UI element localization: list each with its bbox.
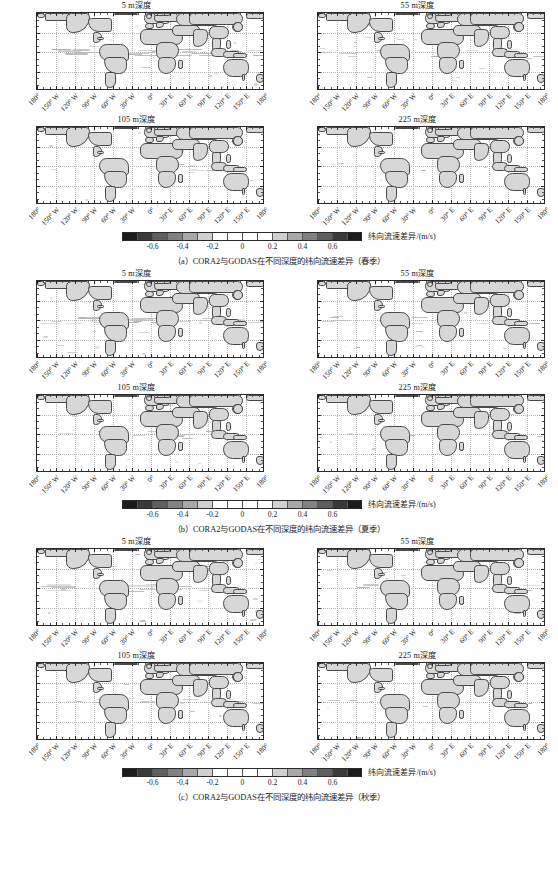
y-axis-minor-tick (542, 140, 544, 141)
x-axis-minor-tick (138, 87, 139, 89)
y-axis-minor-tick (542, 735, 544, 736)
x-axis-minor-tick (369, 395, 370, 397)
graticule-longitude (337, 13, 338, 89)
world-map-plot[interactable]: 60° N30° N0°30° S60° S (317, 126, 545, 204)
x-axis-minor-tick (145, 355, 146, 357)
x-axis-minor-tick (221, 549, 222, 551)
x-axis-minor-tick (183, 13, 184, 15)
x-axis-minor-tick (157, 395, 158, 397)
x-axis-minor-tick (540, 395, 541, 397)
x-axis-tick (432, 281, 433, 284)
x-axis-tick (227, 281, 228, 284)
colorbar[interactable] (122, 500, 362, 509)
x-axis-minor-tick (514, 201, 515, 203)
x-axis-minor-tick (521, 355, 522, 357)
y-axis-tick (37, 722, 40, 723)
x-axis-tick (318, 468, 319, 471)
world-map-plot[interactable]: 60° N30° N0°30° S60° S (317, 12, 545, 90)
x-axis-minor-tick (164, 623, 165, 625)
x-axis-minor-tick (88, 549, 89, 551)
y-axis-minor-tick (37, 46, 39, 47)
anomaly-streak (523, 585, 542, 586)
landmass (145, 23, 154, 28)
landmass (378, 687, 386, 690)
landmass (435, 281, 451, 284)
y-axis-minor-tick (37, 689, 39, 690)
x-axis-minor-tick (495, 737, 496, 739)
landmass (437, 136, 445, 142)
x-axis-minor-tick (50, 355, 51, 357)
world-map-plot[interactable]: 60° N30° N0°30° S60° S (36, 662, 264, 740)
world-map-plot[interactable]: 60° N30° N0°30° S60° S (317, 548, 545, 626)
x-axis-tick (208, 736, 209, 739)
x-axis-minor-tick (107, 127, 108, 129)
x-axis-minor-tick (381, 13, 382, 15)
y-axis-tick (37, 301, 40, 302)
x-axis-minor-tick (533, 127, 534, 129)
colorbar-tick-label: 0.4 (298, 778, 308, 788)
x-axis-minor-tick (233, 737, 234, 739)
x-axis-tick (394, 663, 395, 666)
x-axis-tick (337, 86, 338, 89)
x-axis-minor-tick (50, 549, 51, 551)
x-axis-tick (151, 622, 152, 625)
world-map-plot[interactable]: 60° N30° N0°30° S60° S (317, 662, 545, 740)
anomaly-blob (254, 83, 258, 85)
world-map-plot[interactable]: 60° N30° N0°30° S60° S (317, 280, 545, 358)
x-axis-label-row: 180°150° W120° W90° W60° W30° W0°30° E60… (36, 204, 269, 228)
x-axis-minor-tick (476, 201, 477, 203)
y-axis-tick (318, 702, 321, 703)
y-axis-minor-tick (318, 26, 320, 27)
x-axis-minor-tick (476, 355, 477, 357)
world-map-plot[interactable]: 60° N30° N0°30° S60° S (36, 548, 264, 626)
y-axis-minor-tick (37, 562, 39, 563)
x-axis-tick (470, 549, 471, 552)
x-axis-minor-tick (388, 395, 389, 397)
y-axis-minor-tick (37, 179, 39, 180)
x-axis-tick (470, 281, 471, 284)
x-axis-tick (413, 468, 414, 471)
anomaly-blob (48, 192, 50, 193)
x-axis-minor-tick (457, 281, 458, 283)
colorbar-segment (333, 233, 348, 240)
x-axis-minor-tick (419, 127, 420, 129)
x-axis-minor-tick (419, 281, 420, 283)
x-axis-minor-tick (126, 623, 127, 625)
world-map-plot[interactable]: 60° N30° N0°30° S60° S (317, 394, 545, 472)
colorbar-tick-label: -0.2 (206, 242, 218, 252)
colorbar[interactable] (122, 232, 362, 241)
x-axis-minor-tick (464, 737, 465, 739)
x-axis-minor-tick (533, 355, 534, 357)
x-axis-minor-tick (157, 469, 158, 471)
landmass (435, 13, 451, 16)
y-axis-minor-tick (542, 408, 544, 409)
world-map-plot[interactable]: 60° N30° N0°30° S60° S (36, 12, 264, 90)
x-axis-tick (318, 127, 319, 130)
x-axis-tick (489, 200, 490, 203)
y-axis-tick (318, 166, 321, 167)
x-axis-minor-tick (464, 469, 465, 471)
colorbar-tick-label: -0.2 (206, 778, 218, 788)
world-map-plot[interactable]: 60° N30° N0°30° S60° S (36, 394, 264, 472)
landmass (97, 37, 105, 40)
x-axis-minor-tick (483, 87, 484, 89)
world-map-plot[interactable]: 60° N30° N0°30° S60° S (36, 126, 264, 204)
anomaly-streak (466, 50, 479, 51)
x-axis-minor-tick (176, 13, 177, 15)
colorbar-unit-label: 纬向流速差异/(m/s) (368, 500, 435, 509)
y-axis-minor-tick (318, 307, 320, 308)
y-axis-minor-tick (261, 601, 263, 602)
colorbar-segment (273, 501, 288, 508)
anomaly-streak (65, 53, 88, 54)
y-axis-minor-tick (37, 192, 39, 193)
y-axis-minor-tick (37, 670, 39, 671)
x-axis-minor-tick (407, 127, 408, 129)
anomaly-streak (529, 323, 539, 324)
colorbar[interactable] (122, 768, 362, 777)
graticule-longitude (337, 281, 338, 357)
plot-wrapper: 60° N30° N0°30° S60° S180°150° W120° W90… (285, 662, 550, 764)
x-axis-minor-tick (138, 737, 139, 739)
x-axis-minor-tick (438, 87, 439, 89)
world-map-plot[interactable]: 60° N30° N0°30° S60° S (36, 280, 264, 358)
x-axis-minor-tick (259, 663, 260, 665)
